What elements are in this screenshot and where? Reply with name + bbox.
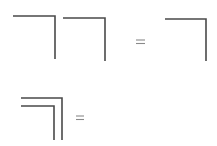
nested-bracket-outer (21, 98, 62, 140)
equals-sign-1 (136, 40, 145, 44)
equals-sign-2 (76, 116, 84, 120)
nested-bracket-inner (21, 106, 54, 140)
row-2 (21, 98, 84, 140)
diagram-canvas (0, 0, 217, 146)
corner-bracket-result (165, 19, 206, 61)
corner-bracket-2 (63, 18, 105, 61)
corner-bracket-1 (13, 16, 55, 59)
row-1 (13, 16, 206, 61)
